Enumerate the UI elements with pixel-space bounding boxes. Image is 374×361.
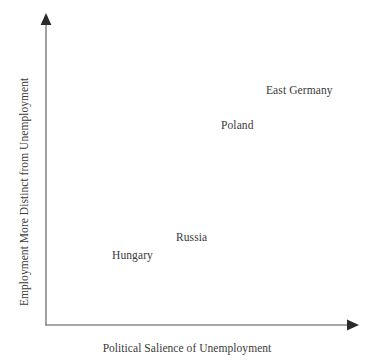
x-axis-label: Political Salience of Unemployment [0, 341, 374, 355]
scatter-plot-figure: Employment More Distinct from Unemployme… [0, 0, 374, 361]
data-point-label-poland: Poland [221, 119, 254, 132]
data-point-label-east-germany: East Germany [266, 84, 333, 97]
data-point-label-russia: Russia [176, 231, 207, 244]
chart-axes [0, 0, 374, 361]
x-axis-arrow-icon [347, 320, 359, 331]
data-point-label-hungary: Hungary [112, 249, 153, 262]
y-axis-label: Employment More Distinct from Unemployme… [17, 36, 31, 306]
y-axis-arrow-icon [41, 13, 52, 25]
